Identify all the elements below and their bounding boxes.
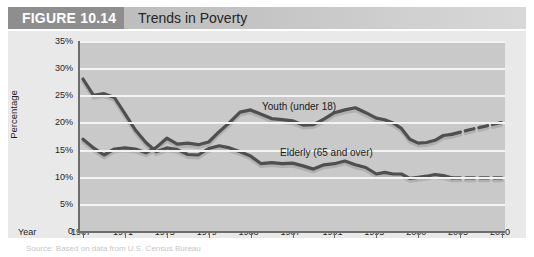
x-axis-tickmark [460, 233, 461, 238]
series-label-youth: Youth (under 18) [262, 101, 336, 112]
gridline [80, 41, 505, 43]
gridline [80, 95, 505, 97]
gridline [80, 177, 505, 179]
plot-area: Youth (under 18)Elderly (65 and over) [78, 41, 505, 233]
y-axis-tick-label: 10% [39, 172, 73, 182]
gridline [80, 204, 505, 206]
figure-header-bar: FIGURE 10.14 Trends in Poverty [8, 7, 526, 29]
x-axis-tickmark [418, 233, 419, 238]
figure-number-label: FIGURE 10.14 [22, 10, 116, 26]
y-axis-tick-label: 5% [39, 199, 73, 209]
x-axis-tickmark [83, 233, 84, 238]
x-axis-tickmark [502, 233, 503, 238]
x-axis-tickmark [167, 233, 168, 238]
figure-container: FIGURE 10.14 Trends in Poverty Percentag… [0, 0, 534, 257]
source-caption-text: Source: Based on data from U.S. Census B… [26, 244, 201, 253]
x-axis-tickmark [251, 233, 252, 238]
y-axis-tick-label: 15% [39, 145, 73, 155]
x-axis-tickmark [293, 233, 294, 238]
y-axis-tick-label: 25% [39, 90, 73, 100]
x-axis-tickmark [334, 233, 335, 238]
y-axis-tick-label: 20% [39, 117, 73, 127]
x-axis-tickmark [125, 233, 126, 238]
gridline [80, 122, 505, 124]
x-axis-tickmark [209, 233, 210, 238]
x-axis-tickmark [376, 233, 377, 238]
figure-title: Trends in Poverty [138, 10, 247, 26]
y-axis-tick-label: 35% [39, 36, 73, 46]
series-label-elderly: Elderly (65 and over) [280, 147, 373, 158]
source-caption: Source: Based on data from U.S. Census B… [8, 243, 526, 257]
gridline [80, 68, 505, 70]
x-axis-title: Year [18, 227, 36, 237]
chart-area: Percentage Year 05%10%15%20%25%30%35% 19… [8, 31, 526, 238]
y-axis-tick-label: 30% [39, 63, 73, 73]
y-axis-title: Percentage [8, 90, 19, 139]
